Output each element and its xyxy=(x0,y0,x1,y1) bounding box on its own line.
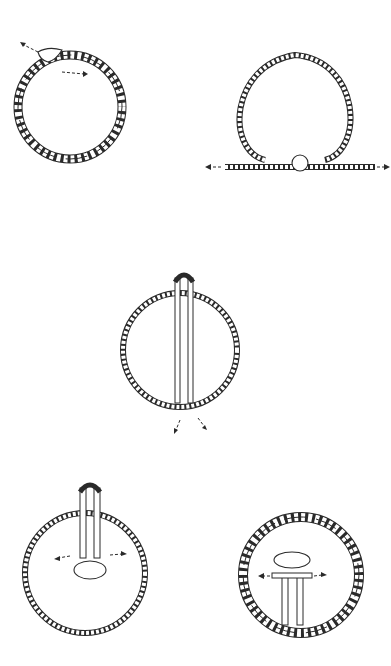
twisted-ring-with-bight-icon xyxy=(210,480,390,650)
ring-with-vertical-strands-icon xyxy=(110,270,260,450)
figure-4-ring-with-bight-knot xyxy=(10,470,190,650)
twisted-rope-ring-icon xyxy=(0,30,140,180)
figure-1-twisted-ring-knot xyxy=(0,30,140,180)
figure-3-ring-with-strands xyxy=(110,270,260,450)
figure-5-twisted-ring-with-bight xyxy=(210,480,390,650)
single-rope-loop-icon xyxy=(205,30,391,180)
ring-with-bight-knot-icon xyxy=(10,470,190,650)
figure-2-single-loop-knot xyxy=(205,30,391,180)
